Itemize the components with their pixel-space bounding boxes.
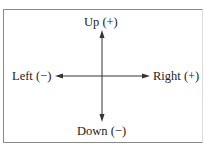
- right-label: Right (+): [153, 70, 199, 83]
- left-label: Left (−): [12, 70, 51, 83]
- right-arrow-icon: [142, 74, 150, 79]
- left-arrow-icon: [55, 74, 63, 79]
- up-label: Up (+): [84, 16, 118, 29]
- up-arrow-icon: [100, 30, 105, 38]
- down-arrow-icon: [100, 114, 105, 122]
- down-label: Down (−): [77, 125, 126, 138]
